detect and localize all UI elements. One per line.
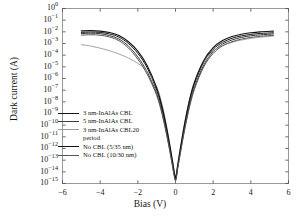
x-axis-title: Bias (V) — [0, 199, 300, 209]
legend-line-swatch — [58, 155, 79, 156]
x-tick-label: 4 — [237, 188, 265, 197]
legend-label: 3 nm-InAlAs CBL20 — [83, 126, 139, 134]
legend-item: No CBL (10/30 nm) — [58, 151, 139, 159]
legend-line-swatch — [58, 121, 79, 122]
legend-line-swatch — [58, 129, 79, 130]
legend-line-swatch — [58, 146, 79, 147]
legend-label: 5 nm-InAlAs CBL — [83, 117, 132, 125]
y-tick-label: 10−7 — [22, 85, 58, 94]
y-tick-label: 10−5 — [22, 62, 58, 71]
y-tick-label: 10−14 — [22, 167, 58, 176]
x-tick-label: −4 — [86, 188, 114, 197]
y-tick-label: 10−11 — [22, 132, 58, 141]
x-tick-label: −2 — [124, 188, 152, 197]
y-tick-label: 10−13 — [22, 155, 58, 164]
legend-item: 5 nm-InAlAs CBL — [58, 117, 139, 125]
figure: 10010−110−210−310−410−510−610−710−810−91… — [0, 0, 300, 216]
legend-label: No CBL (5/35 nm) — [83, 143, 133, 151]
legend-item: No CBL (5/35 nm) — [58, 143, 139, 151]
y-tick-label: 10−15 — [22, 178, 58, 187]
legend-item-continuation: period — [58, 134, 139, 142]
x-tick-label: 0 — [162, 188, 190, 197]
x-tick-label: −6 — [49, 188, 77, 197]
legend: 3 nm-InAlAs CBL5 nm-InAlAs CBL3 nm-InAlA… — [58, 109, 139, 159]
y-tick-label: 10−12 — [22, 143, 58, 152]
y-tick-label: 100 — [22, 3, 58, 12]
y-tick-label: 10−8 — [22, 97, 58, 106]
legend-continuation-label: period — [58, 134, 139, 142]
legend-label: 3 nm-InAlAs CBL — [83, 109, 132, 117]
y-tick-label: 10−3 — [22, 38, 58, 47]
legend-item: 3 nm-InAlAs CBL20 — [58, 126, 139, 134]
y-tick-label: 10−4 — [22, 50, 58, 59]
y-axis-title: Dark current (A) — [9, 29, 19, 149]
legend-item: 3 nm-InAlAs CBL — [58, 109, 139, 117]
y-tick-label: 10−6 — [22, 73, 58, 82]
y-tick-label: 10−1 — [22, 15, 58, 24]
y-tick-label: 10−2 — [22, 27, 58, 36]
y-tick-label: 10−9 — [22, 108, 58, 117]
x-tick-label: 6 — [275, 188, 301, 197]
legend-label: No CBL (10/30 nm) — [83, 151, 136, 159]
x-tick-label: 2 — [199, 188, 227, 197]
legend-line-swatch — [58, 113, 79, 114]
y-tick-label: 10−10 — [22, 120, 58, 129]
